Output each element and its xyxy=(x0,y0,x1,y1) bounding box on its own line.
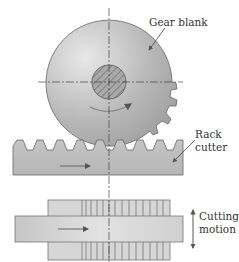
rack-cutter-label-line1: Rack xyxy=(195,128,222,140)
rack-cutter xyxy=(13,140,183,175)
gear-blank-label: Gear blank xyxy=(149,16,208,28)
side-view xyxy=(15,200,183,260)
cutting-motion-label-line1: Cutting xyxy=(199,210,239,222)
cutting-motion-label-line2: motion xyxy=(199,223,236,235)
rack-cutter-label-line2: cutter xyxy=(195,141,227,153)
